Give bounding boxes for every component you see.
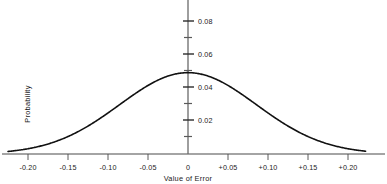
plot-area: 0.08 0.06 0.04 0.02 -0.20 -0.15 -0.10 -0… (0, 0, 387, 184)
y-tick-label-2: 0.04 (198, 83, 213, 92)
x-axis-ticks (28, 154, 348, 160)
x-tick-label-4: 0 (186, 163, 190, 172)
normal-distribution-chart: 0.08 0.06 0.04 0.02 -0.20 -0.15 -0.10 -0… (0, 0, 387, 184)
y-axis-title: Probability (23, 85, 32, 122)
x-tick-label-0: -0.20 (19, 163, 36, 172)
x-axis-title: Value of Error (164, 174, 213, 183)
x-tick-label-2: -0.10 (99, 163, 116, 172)
probability-curve (8, 73, 366, 152)
x-tick-label-3: -0.05 (139, 163, 156, 172)
x-tick-label-8: +0.20 (339, 163, 358, 172)
y-tick-label-3: 0.02 (198, 116, 213, 125)
y-tick-label-0: 0.08 (198, 17, 213, 26)
x-tick-label-1: -0.15 (59, 163, 76, 172)
x-tick-label-7: +0.15 (299, 163, 318, 172)
y-tick-label-1: 0.06 (198, 50, 213, 59)
x-tick-label-6: +0.10 (259, 163, 278, 172)
x-tick-label-5: +0.05 (219, 163, 238, 172)
